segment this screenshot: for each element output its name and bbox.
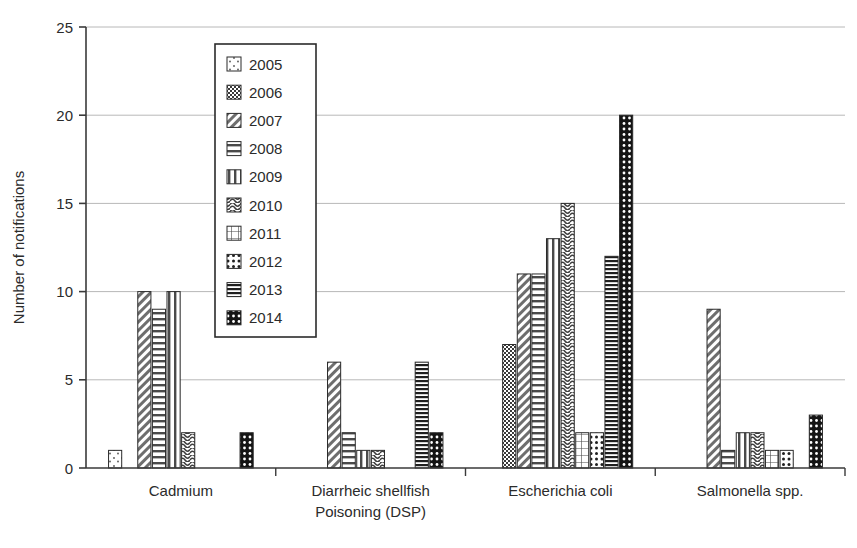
bar-escherichia-coli-2012[interactable]	[590, 433, 603, 468]
legend-swatch-2008[interactable]	[227, 142, 241, 156]
y-tick-label-20: 20	[56, 107, 73, 124]
legend-label-2007[interactable]: 2007	[249, 112, 282, 129]
legend-swatch-2012[interactable]	[227, 254, 241, 268]
bar-diarrheic-shellfish-poisoning-dsp-2013[interactable]	[415, 362, 428, 468]
y-axis-title-text: Number of notifications	[10, 171, 27, 324]
x-category-label-1: Cadmium	[149, 482, 213, 499]
bar-escherichia-coli-2013[interactable]	[605, 256, 618, 468]
y-tick-label-5: 5	[65, 371, 73, 388]
x-category-label-4: Salmonella spp.	[697, 482, 804, 499]
bar-cadmium-2007[interactable]	[138, 292, 151, 468]
legend-swatch-2014[interactable]	[227, 311, 241, 325]
bar-cadmium-2014[interactable]	[240, 433, 253, 468]
x-category-label-3: Escherichia coli	[508, 482, 612, 499]
legend-label-2011[interactable]: 2011	[249, 225, 281, 242]
legend-label-2009[interactable]: 2009	[249, 168, 282, 185]
legend-label-2008[interactable]: 2008	[249, 140, 282, 157]
y-axis-title: Number of notifications	[10, 171, 27, 324]
legend-swatch-2013[interactable]	[227, 283, 241, 297]
legend-label-2006[interactable]: 2006	[249, 84, 282, 101]
bar-escherichia-coli-2014[interactable]	[620, 115, 633, 468]
bar-diarrheic-shellfish-poisoning-dsp-2009[interactable]	[357, 450, 370, 468]
axes-layer	[79, 27, 845, 476]
bar-escherichia-coli-2011[interactable]	[576, 433, 589, 468]
bar-cadmium-2005[interactable]	[109, 450, 122, 468]
bar-diarrheic-shellfish-poisoning-dsp-2007[interactable]	[328, 362, 341, 468]
legend-swatch-2009[interactable]	[227, 170, 241, 184]
legend-swatch-2005[interactable]	[227, 57, 241, 71]
bar-diarrheic-shellfish-poisoning-dsp-2008[interactable]	[342, 433, 355, 468]
bar-salmonella-spp-2014[interactable]	[809, 415, 822, 468]
legend-label-2012[interactable]: 2012	[249, 253, 282, 270]
x-category-label-2: Diarrheic shellfish	[311, 482, 429, 499]
x-axis-category-labels: CadmiumDiarrheic shellfishPoisoning (DSP…	[149, 482, 804, 520]
legend-swatch-2006[interactable]	[227, 85, 241, 99]
bar-cadmium-2009[interactable]	[167, 292, 180, 468]
bar-salmonella-spp-2011[interactable]	[765, 450, 778, 468]
y-tick-label-25: 25	[56, 19, 73, 36]
legend-swatch-2007[interactable]	[227, 113, 241, 127]
bar-chart: 0510152025 CadmiumDiarrheic shellfishPoi…	[0, 0, 857, 548]
bar-escherichia-coli-2008[interactable]	[532, 274, 545, 468]
y-tick-label-10: 10	[56, 283, 73, 300]
bar-cadmium-2008[interactable]	[152, 309, 165, 468]
bar-salmonella-spp-2012[interactable]	[780, 450, 793, 468]
legend-swatch-2011[interactable]	[227, 226, 241, 240]
bar-diarrheic-shellfish-poisoning-dsp-2010[interactable]	[371, 450, 384, 468]
y-tick-label-15: 15	[56, 195, 73, 212]
bar-diarrheic-shellfish-poisoning-dsp-2014[interactable]	[430, 433, 443, 468]
bar-salmonella-spp-2008[interactable]	[722, 450, 735, 468]
y-axis-tick-labels: 0510152025	[56, 19, 73, 477]
legend-label-2013[interactable]: 2013	[249, 281, 282, 298]
gridlines	[86, 27, 845, 380]
legend-swatch-2010[interactable]	[227, 198, 241, 212]
y-tick-label-0: 0	[65, 460, 73, 477]
legend-label-2010[interactable]: 2010	[249, 197, 282, 214]
bar-escherichia-coli-2010[interactable]	[561, 203, 574, 468]
bar-salmonella-spp-2010[interactable]	[751, 433, 764, 468]
bar-salmonella-spp-2009[interactable]	[736, 433, 749, 468]
bar-escherichia-coli-2009[interactable]	[546, 239, 559, 468]
bar-escherichia-coli-2006[interactable]	[503, 345, 516, 468]
legend-label-2014[interactable]: 2014	[249, 309, 282, 326]
legend-label-2005[interactable]: 2005	[249, 56, 282, 73]
bar-salmonella-spp-2007[interactable]	[707, 309, 720, 468]
bar-cadmium-2010[interactable]	[182, 433, 195, 468]
bar-escherichia-coli-2007[interactable]	[517, 274, 530, 468]
x-category-label-2: Poisoning (DSP)	[315, 503, 426, 520]
chart-legend: 2005200620072008200920102011201220132014	[215, 44, 316, 337]
chart-container: 0510152025 CadmiumDiarrheic shellfishPoi…	[0, 0, 857, 548]
